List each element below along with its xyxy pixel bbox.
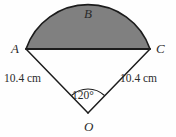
- dimension-label-radius-right: 10.4 cm: [120, 73, 157, 85]
- point-label-C: C: [156, 42, 165, 55]
- dimension-label-radius-left: 10.4 cm: [4, 73, 41, 85]
- geometry-figure: A B C O 10.4 cm 10.4 cm 120°: [0, 0, 176, 137]
- point-label-A: A: [11, 42, 19, 55]
- angle-measure-label: 120°: [72, 90, 94, 102]
- point-label-B: B: [84, 7, 92, 20]
- point-label-O: O: [84, 120, 93, 133]
